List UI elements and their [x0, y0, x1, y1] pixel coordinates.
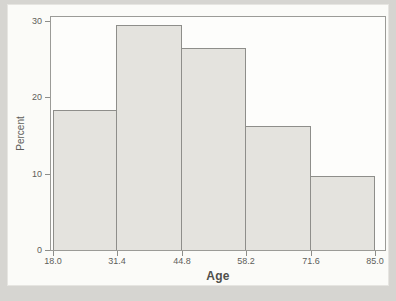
x-axis-title: Age [51, 269, 385, 283]
y-tick-label: 30 [32, 16, 42, 26]
histogram-bar [53, 110, 117, 250]
x-tick-label: 71.6 [302, 256, 320, 266]
y-axis-title-text: Percent [15, 116, 26, 150]
histogram-figure: Percent Age 010203018.031.444.858.271.68… [7, 4, 389, 286]
y-tick-mark [45, 21, 50, 22]
y-tick-mark [45, 174, 50, 175]
y-tick-label: 10 [32, 169, 42, 179]
x-tick-label: 31.4 [108, 256, 126, 266]
x-tick-label: 18.0 [44, 256, 62, 266]
x-tick-label: 85.0 [366, 256, 384, 266]
x-tick-label: 58.2 [237, 256, 255, 266]
histogram-bar [116, 25, 182, 250]
x-tick-label: 44.8 [173, 256, 191, 266]
histogram-bar [310, 176, 375, 250]
y-tick-mark [45, 250, 50, 251]
y-axis-title: Percent [0, 17, 41, 250]
y-tick-mark [45, 97, 50, 98]
plot-area: Percent Age 010203018.031.444.858.271.68… [50, 16, 386, 251]
y-tick-label: 20 [32, 92, 42, 102]
histogram-bar [245, 126, 311, 250]
histogram-bar [181, 48, 246, 250]
figure-page: Percent Age 010203018.031.444.858.271.68… [0, 0, 396, 301]
y-tick-label: 0 [37, 245, 42, 255]
